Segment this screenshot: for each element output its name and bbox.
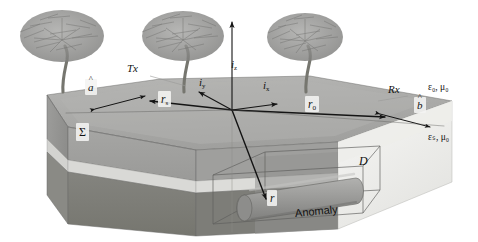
label-r-0: r0 [305,99,319,112]
r-field-symbol: r [267,190,277,206]
figure-canvas [0,0,478,242]
label-r-field: r [267,193,277,205]
b-hat-symbol: ^b [414,97,426,113]
r-s-symbol: rs [158,91,171,107]
label-rx: Rx [388,84,400,95]
label-d-domain: D [359,155,368,167]
i-x-symbol: ix [263,79,269,91]
label-i-z: iz [231,59,237,72]
anomaly-cylinder-cap [237,195,252,221]
label-b-hat: ^b [414,100,426,111]
rx-text: Rx [388,83,400,95]
i-y-symbol: iy [199,76,205,88]
i-y-sub: y [202,82,205,89]
i-x-sub: x [266,85,269,92]
r-0-sub: 0 [312,104,316,112]
sigma-symbol: Σ [76,123,89,141]
tx-text: Tx [127,62,138,74]
label-r-s: rs [158,94,171,107]
eps-s-mu-0-text: εₛ, μ₀ [428,132,449,142]
r-s-sub: s [165,99,168,107]
label-eps-0-mu-0: ε₀, μ₀ [428,83,448,93]
label-a-hat: ^a [85,82,97,93]
r-0-symbol: r0 [305,96,319,112]
label-eps-s-mu-0: εₛ, μ₀ [428,133,449,143]
a-hat-symbol: ^a [85,79,97,95]
d-symbol: D [359,154,368,168]
i-z-symbol: iz [231,58,237,70]
eps-0-mu-0-text: ε₀, μ₀ [428,82,448,92]
label-i-x: ix [263,80,269,93]
label-i-y: iy [199,77,205,90]
a-hat-mark: ^ [89,75,93,84]
b-hat-mark: ^ [418,93,422,102]
label-sigma: Σ [76,126,89,138]
diagram-svg [0,0,478,242]
label-tx: Tx [127,63,138,74]
i-z-sub: z [234,64,237,71]
